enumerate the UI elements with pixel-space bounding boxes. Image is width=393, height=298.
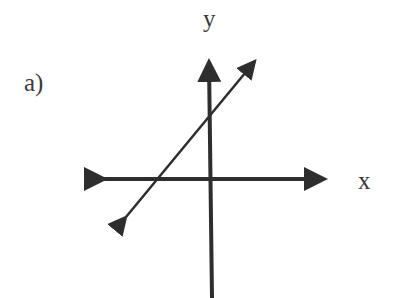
y-axis [209, 62, 212, 298]
y-axis-label: y [203, 6, 216, 31]
part-label: a) [24, 70, 43, 95]
graph-figure: a) y x [0, 0, 393, 298]
coordinate-plane [0, 0, 393, 298]
x-axis-label: x [358, 168, 371, 193]
linear-function-line [126, 61, 255, 217]
